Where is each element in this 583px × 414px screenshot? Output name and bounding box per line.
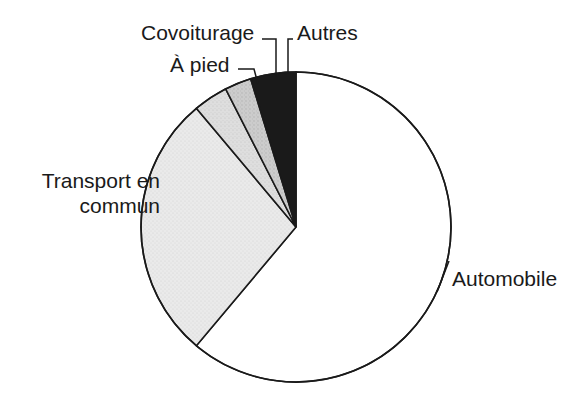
leader-line-autres <box>288 39 293 74</box>
pie-label-automobile: Automobile <box>452 266 557 291</box>
leader-line-covoiturage <box>262 39 276 77</box>
pie-label-covoiturage: Covoiturage <box>141 20 254 45</box>
pie-label-a-pied: À pied <box>170 52 230 77</box>
pie-chart-figure: Covoiturage À pied Autres Transport en c… <box>0 0 583 414</box>
pie-label-transport-en-commun: Transport en commun <box>24 168 160 218</box>
pie-label-autres: Autres <box>297 20 358 45</box>
